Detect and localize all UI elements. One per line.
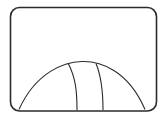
rounded-frame (11, 8, 157, 112)
diagram-canvas (0, 0, 163, 121)
ball-in-frame-drawing (0, 0, 163, 121)
ball-seam-left (68, 63, 77, 110)
ball-seam-right (96, 64, 103, 111)
half-ball-dome (19, 61, 145, 109)
